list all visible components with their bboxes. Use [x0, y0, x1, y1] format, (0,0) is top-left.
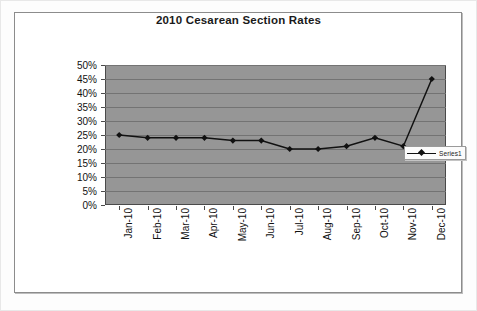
x-tick-label: Jan-10 — [123, 208, 134, 239]
series-line-chart — [105, 65, 446, 205]
x-tick-label: Nov-10 — [407, 208, 418, 240]
x-tick-mark — [347, 206, 348, 210]
chart-legend[interactable]: Series1 — [404, 146, 466, 160]
data-point-marker[interactable] — [145, 135, 151, 141]
y-tick-label: 45% — [77, 74, 97, 85]
y-tick-mark — [101, 79, 105, 80]
data-point-marker[interactable] — [287, 146, 293, 152]
x-tick-label: Sep-10 — [351, 208, 362, 240]
x-tick-label: Jul-10 — [294, 208, 305, 235]
y-tick-mark — [101, 205, 105, 206]
y-tick-mark — [101, 135, 105, 136]
y-axis-labels: 0%5%10%15%20%25%30%35%40%45%50% — [60, 65, 101, 205]
x-tick-mark — [261, 206, 262, 210]
y-tick-mark — [101, 191, 105, 192]
x-tick-label: Dec-10 — [436, 208, 447, 240]
y-tick-mark — [101, 149, 105, 150]
data-point-marker[interactable] — [343, 143, 349, 149]
y-tick-label: 30% — [77, 116, 97, 127]
series-line — [119, 79, 432, 149]
x-tick-mark — [375, 206, 376, 210]
y-tick-mark — [101, 65, 105, 66]
y-tick-label: 50% — [77, 60, 97, 71]
data-point-marker[interactable] — [173, 135, 179, 141]
y-tick-label: 0% — [83, 200, 97, 211]
data-point-marker[interactable] — [258, 138, 264, 144]
x-tick-mark — [204, 206, 205, 210]
y-tick-label: 20% — [77, 144, 97, 155]
x-tick-label: May-10 — [237, 208, 248, 241]
data-point-marker[interactable] — [372, 135, 378, 141]
x-tick-mark — [403, 206, 404, 210]
legend-series-label: Series1 — [439, 150, 462, 157]
y-tick-mark — [101, 93, 105, 94]
y-tick-mark — [101, 163, 105, 164]
x-tick-mark — [432, 206, 433, 210]
y-tick-label: 35% — [77, 102, 97, 113]
y-tick-label: 40% — [77, 88, 97, 99]
data-point-marker[interactable] — [201, 135, 207, 141]
y-tick-label: 25% — [77, 130, 97, 141]
x-tick-mark — [176, 206, 177, 210]
x-tick-mark — [318, 206, 319, 210]
y-tick-label: 5% — [83, 186, 97, 197]
x-tick-mark — [290, 206, 291, 210]
x-tick-label: Jun-10 — [265, 208, 276, 239]
data-point-marker[interactable] — [315, 146, 321, 152]
x-tick-label: Apr-10 — [208, 208, 219, 238]
x-tick-mark — [119, 206, 120, 210]
x-tick-label: Mar-10 — [180, 208, 191, 240]
plot-area — [105, 65, 446, 205]
x-tick-label: Aug-10 — [322, 208, 333, 240]
y-tick-mark — [101, 107, 105, 108]
data-point-marker[interactable] — [429, 76, 435, 82]
y-tick-label: 15% — [77, 158, 97, 169]
x-tick-label: Feb-10 — [152, 208, 163, 240]
y-tick-mark — [101, 177, 105, 178]
legend-series-marker-icon — [407, 149, 436, 157]
x-tick-mark — [233, 206, 234, 210]
x-axis-labels: Jan-10Feb-10Mar-10Apr-10May-10Jun-10Jul-… — [105, 206, 446, 268]
data-point-marker[interactable] — [116, 132, 122, 138]
chart-page: 2010 Cesarean Section Rates 0%5%10%15%20… — [0, 0, 477, 311]
chart-title: 2010 Cesarean Section Rates — [0, 14, 477, 26]
y-tick-label: 10% — [77, 172, 97, 183]
y-tick-mark — [101, 121, 105, 122]
data-point-marker[interactable] — [230, 138, 236, 144]
x-tick-mark — [148, 206, 149, 210]
x-tick-label: Oct-10 — [379, 208, 390, 238]
